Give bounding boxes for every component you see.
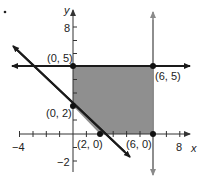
point-label-2-0: (2, 0) (77, 138, 103, 150)
vertex-6-0 (150, 131, 156, 137)
vertex-2-0 (97, 131, 103, 137)
problem-marker (4, 11, 7, 14)
vertex-6-5 (150, 63, 156, 69)
point-label-0-5: (0, 5) (47, 52, 73, 64)
y-axis-label: y (63, 4, 71, 16)
point-label-6-5: (6, 5) (155, 70, 181, 82)
point-label-6-0: (6, 0) (126, 138, 152, 150)
tick-label-y-8: 8 (64, 22, 70, 34)
feasible-region (73, 66, 153, 134)
x-axis-label: x (190, 142, 197, 154)
tick-label-x-neg4: −4 (12, 141, 25, 153)
tick-label-y-neg2: −2 (57, 156, 70, 168)
tick-label-x-8: 8 (176, 141, 182, 153)
point-label-0-2: (0, 2) (46, 107, 72, 119)
chart-canvas: y x 8 −2 −4 8 (0, 5) (6, 5) (0, 2) (2, 0… (0, 0, 202, 177)
